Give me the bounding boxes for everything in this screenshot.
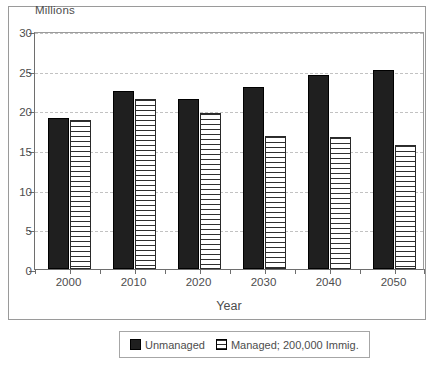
x-axis-tick: [200, 269, 201, 274]
x-axis-tick: [70, 269, 71, 274]
bar-unmanaged-2010: [113, 91, 134, 270]
y-tick-label: 0: [26, 265, 32, 277]
x-axis-boundary-tick: [295, 269, 296, 274]
y-tick-label: 25: [19, 67, 32, 79]
gridline: [35, 231, 423, 232]
x-axis-title: Year: [34, 299, 424, 313]
solid-swatch-icon: [130, 339, 141, 350]
y-tick-label: 5: [26, 225, 32, 237]
x-axis-boundary-tick: [230, 269, 231, 274]
x-axis-boundary-tick: [35, 269, 36, 274]
bar-group: [308, 33, 351, 269]
x-axis-tick: [135, 269, 136, 274]
gridline: [35, 152, 423, 153]
bar-unmanaged-2000: [48, 118, 69, 269]
bar-unmanaged-2030: [243, 87, 264, 269]
bar-group: [48, 33, 91, 269]
y-tick-label: 15: [19, 146, 32, 158]
x-tick-label-2000: 2000: [56, 276, 82, 288]
y-tick-label: 20: [19, 106, 32, 118]
x-axis-tick: [330, 269, 331, 274]
bar-managed-2010: [135, 99, 156, 269]
bar-unmanaged-2020: [178, 99, 199, 269]
bar-unmanaged-2040: [308, 75, 329, 269]
bar-managed-2050: [395, 145, 416, 269]
y-axis-unit-label: Millions: [35, 4, 75, 16]
bar-managed-2020: [200, 113, 221, 269]
bar-managed-2000: [70, 120, 91, 269]
legend-label: Managed; 200,000 Immig.: [231, 339, 359, 351]
x-axis-tick: [265, 269, 266, 274]
bar-managed-2030: [265, 136, 286, 269]
bar-chart: Millions 051015202530 200020102020203020…: [0, 0, 438, 375]
bar-group: [243, 33, 286, 269]
legend-item-managed: Managed; 200,000 Immig.: [216, 339, 359, 351]
hatched-swatch-icon: [216, 339, 227, 350]
x-axis-tick-labels: 200020102020203020402050: [34, 276, 424, 292]
chart-legend: UnmanagedManaged; 200,000 Immig.: [119, 331, 370, 358]
x-tick-label-2040: 2040: [316, 276, 342, 288]
bar-group: [178, 33, 221, 269]
gridline: [35, 192, 423, 193]
x-axis-boundary-tick: [165, 269, 166, 274]
x-tick-label-2010: 2010: [121, 276, 147, 288]
x-tick-label-2020: 2020: [186, 276, 212, 288]
bar-managed-2040: [330, 137, 351, 269]
y-tick-label: 10: [19, 186, 32, 198]
bar-group: [113, 33, 156, 269]
y-tick-label: 30: [19, 27, 32, 39]
x-axis-boundary-tick: [360, 269, 361, 274]
plot-area: 051015202530: [34, 32, 424, 270]
x-tick-label-2030: 2030: [251, 276, 277, 288]
bar-group: [373, 33, 416, 269]
legend-item-unmanaged: Unmanaged: [130, 339, 205, 351]
x-axis-boundary-tick: [424, 269, 425, 274]
gridline: [35, 112, 423, 113]
x-axis-boundary-tick: [100, 269, 101, 274]
gridline: [35, 33, 423, 34]
gridline: [35, 73, 423, 74]
bar-unmanaged-2050: [373, 70, 394, 269]
legend-label: Unmanaged: [145, 339, 205, 351]
x-axis-tick: [395, 269, 396, 274]
x-tick-label-2050: 2050: [381, 276, 407, 288]
